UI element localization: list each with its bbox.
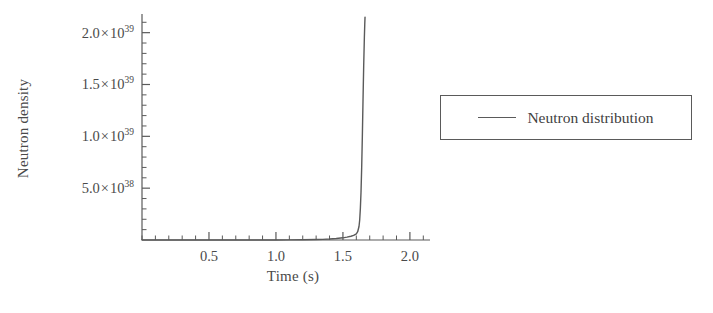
y-tick-label: 2.0×1039 xyxy=(20,24,134,41)
legend-entry: Neutron distribution xyxy=(441,96,691,139)
y-axis-ticks xyxy=(142,22,150,229)
series-line-neutron-distribution xyxy=(142,17,365,240)
x-tick-label: 1.0 xyxy=(267,248,285,265)
x-tick-label: 2.0 xyxy=(401,248,419,265)
legend-line-swatch-icon xyxy=(478,117,516,119)
y-tick-label: 1.5×1039 xyxy=(20,76,134,93)
x-tick-label: 0.5 xyxy=(200,248,218,265)
y-tick-label: 5.0×1038 xyxy=(20,180,134,197)
legend-entry-label: Neutron distribution xyxy=(527,109,653,127)
x-axis-ticks xyxy=(142,232,423,240)
axis-lines xyxy=(142,14,430,240)
y-tick-label: 1.0×1039 xyxy=(20,128,134,145)
x-axis-title: Time (s) xyxy=(238,268,348,285)
chart-legend: Neutron distribution xyxy=(440,95,692,140)
plot-area xyxy=(0,0,713,313)
chart-figure: Neutron density Time (s) 5.0×10381.0×103… xyxy=(0,0,713,313)
x-tick-label: 1.5 xyxy=(334,248,352,265)
